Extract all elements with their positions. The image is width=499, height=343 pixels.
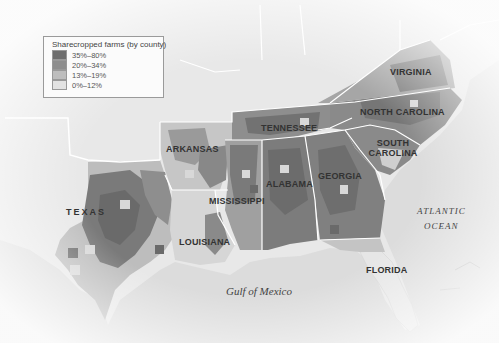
state-label-alabama: ALABAMA [266, 179, 313, 189]
legend-item-mid: 20%–34% [52, 60, 163, 70]
state-label-arkansas: ARKANSAS [166, 144, 219, 154]
state-label-virginia: VIRGINIA [390, 67, 432, 77]
legend-label: 35%–80% [72, 51, 106, 60]
legend-swatch [52, 50, 67, 60]
map-legend: Sharecropped farms (by county) 35%–80% 2… [43, 36, 164, 98]
legend-swatch [52, 60, 67, 70]
state-label-florida: FLORIDA [366, 265, 407, 275]
legend-swatch [52, 80, 67, 90]
state-label-south-carolina: SOUTH CAROLINA [368, 138, 418, 158]
water-label-ocean: OCEAN [424, 221, 459, 231]
state-label-north-carolina: NORTH CAROLINA [360, 107, 445, 117]
state-label-louisiana: LOUISIANA [179, 237, 230, 247]
state-label-texas: TEXAS [66, 207, 106, 217]
legend-title: Sharecropped farms (by county) [52, 40, 163, 50]
water-label-atlantic: ATLANTIC [417, 206, 466, 216]
state-label-tennessee: TENNESSEE [261, 123, 317, 133]
legend-item-none: 0%–12% [52, 80, 163, 90]
state-label-georgia: GEORGIA [318, 171, 362, 181]
legend-swatch [52, 70, 67, 80]
state-label-mississippi: MISSISSIPPI [209, 196, 265, 206]
water-label-gulf-of-mexico: Gulf of Mexico [226, 285, 292, 297]
legend-label: 20%–34% [72, 61, 106, 70]
legend-label: 13%–19% [72, 71, 106, 80]
sharecropping-map: Sharecropped farms (by county) 35%–80% 2… [0, 0, 499, 343]
legend-item-high: 35%–80% [52, 50, 163, 60]
legend-label: 0%–12% [72, 81, 102, 90]
legend-item-low: 13%–19% [52, 70, 163, 80]
